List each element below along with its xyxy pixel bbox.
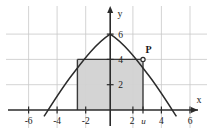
y-tick-label-6: 6 <box>118 30 123 40</box>
plot-canvas: -6 -4 -2 2 u 4 6 2 4 6 y x P <box>0 0 213 136</box>
point-p-label: P <box>146 44 152 55</box>
x-tick-label-4: 4 <box>159 116 164 126</box>
x-tick-label-2: 2 <box>130 116 135 126</box>
x-tick-label--2: -2 <box>82 116 90 126</box>
point-p-marker <box>141 57 145 61</box>
y-axis-label: y <box>118 8 123 19</box>
y-axis-arrow <box>107 6 113 13</box>
x-axis-arrow <box>191 107 198 113</box>
x-tick-label--4: -4 <box>53 116 61 126</box>
x-tick-label--6: -6 <box>25 116 33 126</box>
y-tick-label-2: 2 <box>118 80 123 90</box>
x-axis-label: x <box>197 94 202 105</box>
x-tick-label-6: 6 <box>188 116 193 126</box>
y-tick-label-4: 4 <box>118 55 123 65</box>
x-tick-label-u: u <box>141 116 146 126</box>
parabola-figure: -6 -4 -2 2 u 4 6 2 4 6 y x P <box>0 0 213 136</box>
